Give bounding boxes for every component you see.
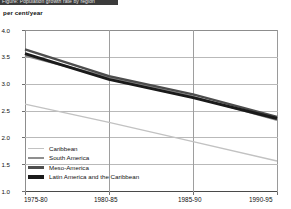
x-axis-tick-mark [193,192,194,195]
plot-frame-bottom [25,191,278,192]
gridline-horizontal [25,84,278,85]
y-axis-unit-label: per cent/year [3,9,43,17]
y-axis-tick-label: 2.5 [0,107,10,114]
plot-frame-top [25,30,278,31]
x-axis-tick-label: 1980-85 [94,196,117,204]
y-axis-tick-mark [22,30,25,31]
x-axis-tick-mark [25,192,26,195]
y-axis-tick-label: 1.5 [0,161,10,168]
title-banner: Figure: Population growth rate by region [0,0,118,5]
y-axis-tick-mark [22,164,25,165]
x-axis-tick-mark [277,192,278,195]
chart-root: Figure: Population growth rate by region… [0,0,291,209]
legend-swatch [28,157,44,159]
y-axis-tick-label: 2.0 [0,134,10,141]
y-axis-tick-mark [22,57,25,58]
x-axis-tick-mark [109,192,110,195]
x-axis-tick-label: 1985-90 [178,196,201,204]
y-axis-tick-mark [22,84,25,85]
legend-item[interactable]: South America [28,153,139,162]
gridline-horizontal [25,57,278,58]
chart-legend: CaribbeanSouth AmericaMeso-AmericaLatin … [28,144,139,182]
legend-item[interactable]: Caribbean [28,144,139,153]
legend-item[interactable]: Meso-America [28,163,139,172]
gridline-vertical [193,30,194,192]
gridline-horizontal [25,137,278,138]
title-banner-text: Figure: Population growth rate by region [0,0,118,4]
x-axis-tick-label: 1990-95 [249,196,272,204]
y-axis-tick-label: 4.0 [0,27,10,34]
gridline-horizontal [25,111,278,112]
legend-label: Latin America and the Caribbean [49,172,139,181]
legend-label: Meso-America [49,163,89,172]
legend-label: South America [49,153,89,162]
y-axis-tick-label: 3.5 [0,53,10,60]
y-axis-tick-label: 1.0 [0,188,10,195]
y-axis-tick-mark [22,111,25,112]
legend-label: Caribbean [49,144,78,153]
legend-item[interactable]: Latin America and the Caribbean [28,172,139,181]
legend-swatch [28,148,44,150]
x-axis-tick-label: 1975-80 [24,196,47,204]
y-axis-tick-label: 3.0 [0,80,10,87]
legend-swatch [28,166,44,169]
y-axis-tick-mark [22,137,25,138]
legend-swatch [28,175,44,179]
